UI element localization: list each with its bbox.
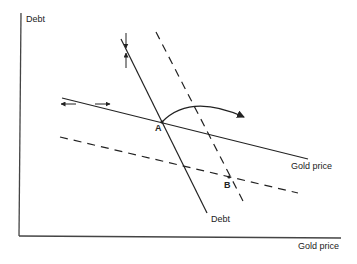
gold-price-line-label: Gold price <box>291 161 332 171</box>
point-b <box>227 175 230 178</box>
debt-line-label: Debt <box>211 214 231 224</box>
x-axis <box>19 236 341 238</box>
debt-line <box>121 39 207 213</box>
gold-price-shifted-line <box>60 137 298 193</box>
shift-curved-arrow-icon <box>162 106 244 122</box>
y-axis-label: Debt <box>26 14 46 24</box>
point-b-label: B <box>224 180 231 190</box>
x-axis-label: Gold price <box>298 241 339 251</box>
y-axis <box>19 13 21 236</box>
gold-debt-diagram: Debt Gold price Gold price Debt A B <box>0 0 357 264</box>
point-a-label: A <box>155 123 162 133</box>
gold-price-line <box>62 98 308 159</box>
